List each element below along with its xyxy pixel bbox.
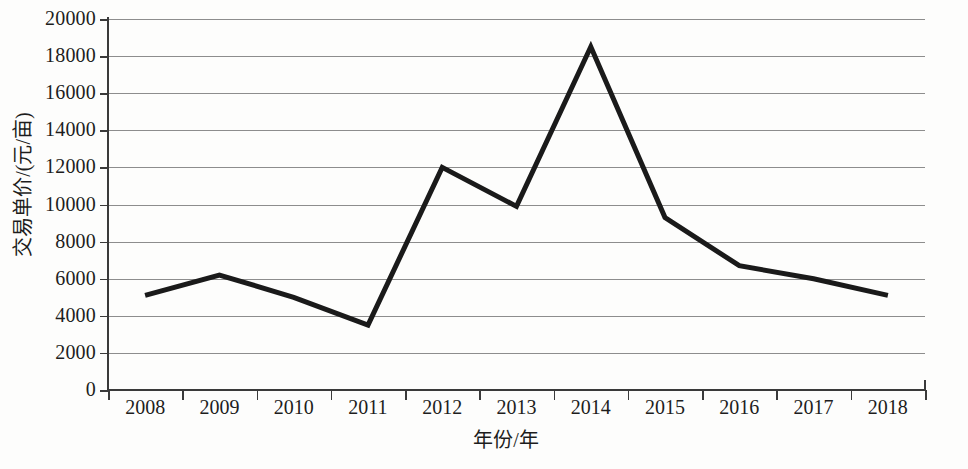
y-axis-tick-label: 0	[0, 379, 96, 399]
chart-screenshot: 0200040006000800010000120001400016000180…	[0, 0, 968, 469]
y-axis-tick-label: 18000	[0, 45, 96, 65]
y-axis-tick-label: 20000	[0, 8, 96, 28]
gridline	[108, 205, 925, 206]
gridline	[108, 353, 925, 354]
gridline	[108, 167, 925, 168]
y-axis-line	[107, 17, 109, 392]
y-axis-tick-label: 4000	[0, 305, 96, 325]
plot-area	[108, 19, 925, 390]
y-axis-title: 交易单价/(元/亩)	[7, 85, 36, 285]
y-axis-tick-label: 2000	[0, 342, 96, 362]
gridline	[108, 19, 925, 20]
x-axis-tick-label: 2018	[843, 396, 933, 418]
gridline	[108, 93, 925, 94]
gridline	[108, 279, 925, 280]
gridline	[108, 56, 925, 57]
gridline	[108, 130, 925, 131]
x-axis-line	[107, 389, 926, 391]
gridline	[108, 316, 925, 317]
gridline	[108, 242, 925, 243]
x-axis-title: 年份/年	[0, 424, 968, 453]
